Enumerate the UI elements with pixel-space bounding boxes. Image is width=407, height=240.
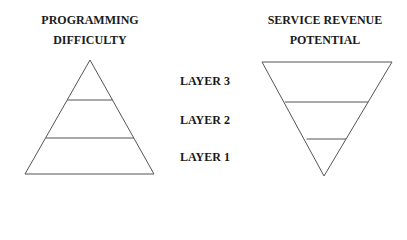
- inverted-pyramid-outline: [262, 62, 392, 176]
- layer-1-label: LAYER 1: [165, 150, 245, 165]
- programming-difficulty-pyramid: [25, 60, 154, 174]
- service-revenue-inverted-pyramid: [262, 62, 392, 176]
- layer-2-label: LAYER 2: [165, 113, 245, 128]
- pyramid-outline: [25, 60, 154, 174]
- layer-3-label: LAYER 3: [165, 74, 245, 89]
